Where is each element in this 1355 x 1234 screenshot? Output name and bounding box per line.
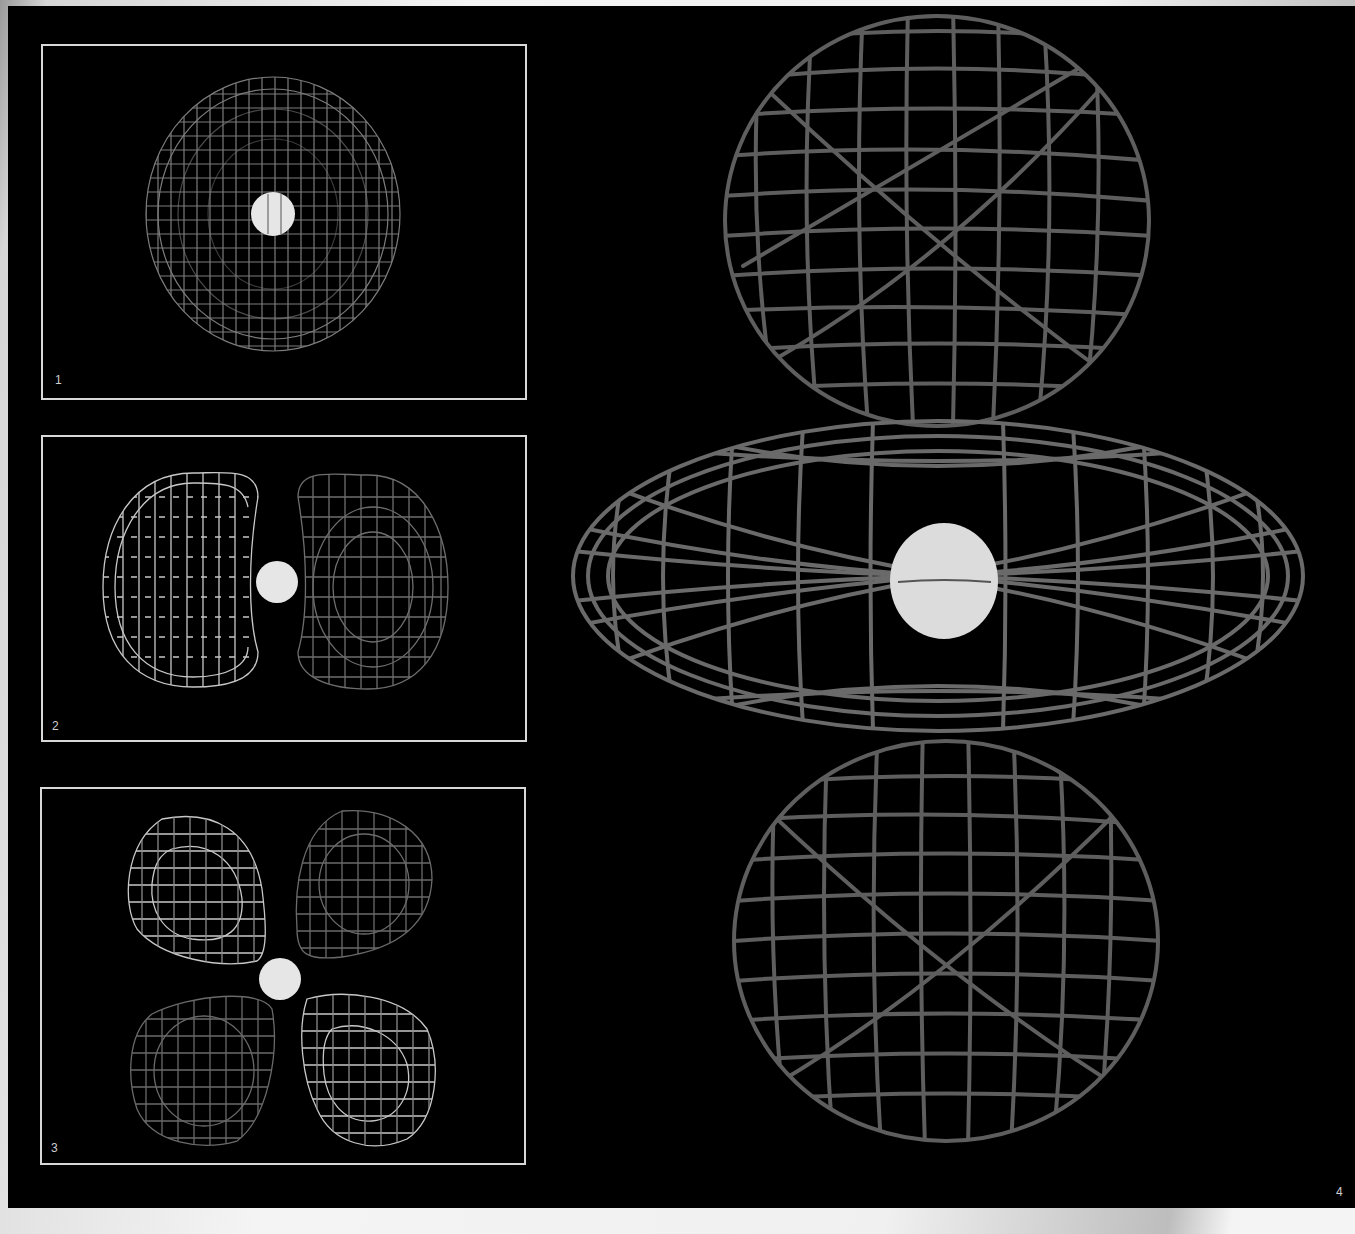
panel-s-orbital: 1 [41,44,527,400]
panel-label: 3 [51,1142,58,1154]
panel-label: 2 [52,720,59,732]
dz2-orbital-wireframe-icon [563,6,1355,1208]
figure-board: 1 [8,6,1355,1208]
panel-label: 4 [1336,1186,1343,1198]
panel-label: 1 [55,374,62,386]
nucleus-icon [251,192,295,236]
panel-dz2-orbital [563,6,1355,1208]
panel-d-orbital: 3 [40,787,526,1165]
nucleus-icon [259,958,301,1000]
s-orbital-wireframe-icon [43,46,525,398]
panel-p-orbital: 2 [41,435,527,742]
nucleus-icon [256,561,298,603]
p-orbital-wireframe-icon [43,437,525,740]
d-orbital-wireframe-icon [42,789,524,1163]
